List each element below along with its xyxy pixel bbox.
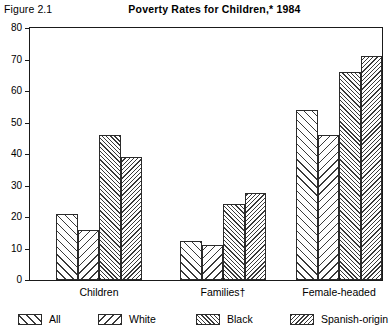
legend-swatch-spanish-origin-icon (290, 314, 314, 325)
legend-label: Black (227, 314, 253, 325)
y-axis-tick-label: 50 (11, 118, 22, 128)
x-axis-group-tick (339, 275, 340, 280)
bar-all-female-headed (296, 110, 318, 280)
bar-black-female-headed (339, 72, 361, 280)
legend-item-white[interactable]: White (98, 311, 156, 327)
bar-white-children (78, 230, 100, 280)
x-axis-group-tick (99, 275, 100, 280)
legend-swatch-white-icon (98, 314, 122, 325)
y-axis-tick-label: 30 (11, 181, 22, 191)
legend-label: White (129, 314, 156, 325)
y-axis-tick (25, 28, 30, 29)
chart-legend: AllWhiteBlackSpanish-origin (0, 311, 389, 331)
legend-item-spanish-origin[interactable]: Spanish-origin (290, 311, 388, 327)
legend-item-black[interactable]: Black (196, 311, 253, 327)
figure-header: Figure 2.1 Poverty Rates for Children,* … (0, 3, 389, 19)
y-axis-tick (25, 186, 30, 187)
x-axis-group-label: Families† (201, 286, 246, 298)
bar-black-children (99, 135, 121, 280)
y-axis-tick (25, 91, 30, 92)
x-axis-group-label: Children (79, 286, 118, 298)
y-axis-tick-label: 70 (11, 55, 22, 65)
bar-spanish-origin-families- (245, 193, 267, 280)
x-axis-group-tick (223, 275, 224, 280)
bar-white-families- (202, 245, 224, 280)
y-axis-tick-label: 20 (11, 212, 22, 222)
y-axis-tick-label: 10 (11, 244, 22, 254)
legend-swatch-black-icon (196, 314, 220, 325)
plot-inner: 01020304050607080ChildrenFamilies†Female… (30, 28, 382, 280)
bar-white-female-headed (318, 135, 340, 280)
figure-container: Figure 2.1 Poverty Rates for Children,* … (0, 0, 389, 335)
y-axis-tick-label: 0 (16, 275, 22, 285)
legend-label: All (49, 314, 61, 325)
y-axis-tick-label: 80 (11, 23, 22, 33)
y-axis-tick (25, 217, 30, 218)
bar-black-families- (223, 204, 245, 280)
legend-label: Spanish-origin (321, 314, 388, 325)
bar-all-children (56, 214, 78, 280)
bar-spanish-origin-children (121, 157, 143, 280)
y-axis-tick-label: 60 (11, 86, 22, 96)
y-axis-tick (25, 249, 30, 250)
figure-title: Poverty Rates for Children,* 1984 (0, 3, 389, 15)
bar-all-families- (180, 241, 202, 280)
y-axis-tick (25, 280, 30, 281)
bar-spanish-origin-female-headed (361, 56, 383, 280)
y-axis-tick (25, 123, 30, 124)
legend-item-all[interactable]: All (18, 311, 61, 327)
legend-swatch-all-icon (18, 314, 42, 325)
y-axis-tick-label: 40 (11, 149, 22, 159)
y-axis-tick (25, 154, 30, 155)
plot-area: 01020304050607080ChildrenFamilies†Female… (29, 27, 383, 281)
y-axis-tick (25, 60, 30, 61)
x-axis-group-label: Female-headed (302, 286, 376, 298)
